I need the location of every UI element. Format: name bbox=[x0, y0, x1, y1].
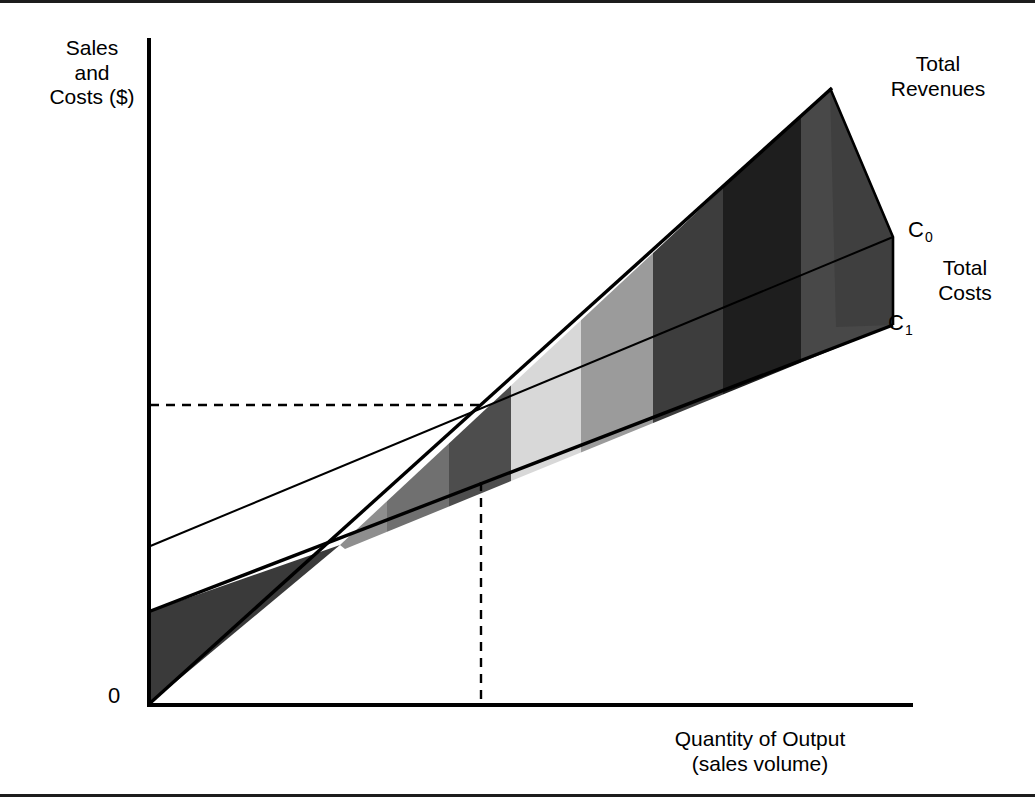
total-costs-label: Total Costs bbox=[910, 256, 1020, 305]
c1-label-base: C bbox=[888, 310, 904, 335]
c0-label: C0 bbox=[908, 217, 932, 243]
wedge-band-6 bbox=[653, 60, 723, 580]
origin-label: 0 bbox=[108, 683, 120, 709]
cvp-chart bbox=[0, 0, 1035, 797]
c0-label-base: C bbox=[908, 217, 924, 242]
wedge-band-5 bbox=[581, 60, 653, 580]
c1-label: C1 bbox=[888, 310, 912, 336]
figure-canvas: Sales and Costs ($) Quantity of Output (… bbox=[0, 0, 1035, 797]
wedge-band-4 bbox=[511, 60, 581, 580]
c0-label-subscript: 0 bbox=[925, 229, 933, 245]
wedge-band-1 bbox=[335, 60, 387, 580]
c1-label-subscript: 1 bbox=[905, 322, 913, 338]
total-costs-line-c0 bbox=[148, 237, 893, 547]
x-axis-label: Quantity of Output (sales volume) bbox=[615, 727, 905, 776]
wedge-band-2 bbox=[387, 60, 449, 580]
wedge-band-7 bbox=[723, 60, 801, 580]
total-revenues-label: Total Revenues bbox=[864, 52, 1012, 101]
profit-wedge-bands bbox=[335, 60, 911, 580]
total-revenues-line bbox=[148, 88, 832, 705]
y-axis-label: Sales and Costs ($) bbox=[32, 36, 152, 110]
